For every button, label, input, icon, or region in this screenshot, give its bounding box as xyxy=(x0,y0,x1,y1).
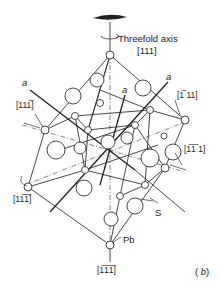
s-atom xyxy=(74,142,86,154)
direction-label-upper-left: [111̅] xyxy=(16,100,34,110)
s-atom xyxy=(47,141,65,159)
direction-label-upper-right: [1̅ 11] xyxy=(177,90,198,100)
direction-label-lower-right: [1̅1̅ 1] xyxy=(184,144,205,154)
s-atom xyxy=(76,180,92,196)
s-atom xyxy=(121,132,133,144)
pb-atom xyxy=(97,100,104,107)
s-atom xyxy=(135,80,151,96)
lattice-a-right: a xyxy=(166,71,171,82)
pb-atom xyxy=(161,133,167,139)
pb-atom xyxy=(117,193,124,200)
s-atom xyxy=(165,144,181,160)
panel-label: ( b) xyxy=(195,266,209,277)
s-atom xyxy=(127,198,143,214)
s-atom xyxy=(90,73,104,87)
pb-atom xyxy=(85,127,92,134)
pb-atom xyxy=(142,182,149,189)
pb-atom xyxy=(181,116,189,124)
pb-atom xyxy=(147,107,154,114)
s-atom xyxy=(65,88,81,104)
pb-atom xyxy=(82,167,89,174)
direction-label-lower-left: [11̅1̅] xyxy=(13,194,32,204)
lattice-a-left: a xyxy=(22,77,27,88)
lead-label: Pb xyxy=(123,234,135,245)
pb-atom xyxy=(161,164,169,172)
pb-atom xyxy=(132,122,139,129)
s-atom xyxy=(104,212,118,226)
sulfur-label: S xyxy=(155,207,161,218)
lattice-a-center: a xyxy=(122,84,127,95)
pb-atom xyxy=(41,126,49,134)
s-atom xyxy=(101,135,115,149)
direction-label-bottom: [1̅1̅1̅] xyxy=(97,265,117,275)
panel-close-paren: ) xyxy=(206,266,209,277)
axis-top-label: [111] xyxy=(137,45,157,56)
threefold-axis-title: Threefold axis xyxy=(118,33,178,44)
pointers xyxy=(21,100,186,262)
pb-atom xyxy=(106,51,114,59)
pb-atom xyxy=(72,113,79,120)
s-atom xyxy=(141,149,159,167)
panel-label-text: ( xyxy=(195,266,199,277)
pb-atom xyxy=(24,183,32,191)
pbs-crystal-structure-diagram: Threefold axis [111] a a a [111̅] [11̅1̅… xyxy=(0,0,221,289)
